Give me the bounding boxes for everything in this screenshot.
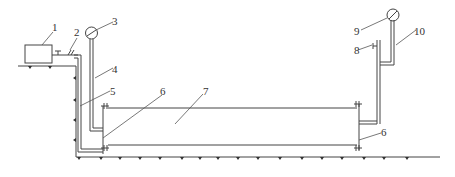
label-4: 4: [112, 63, 118, 75]
label-2: 2: [74, 26, 80, 38]
label-3: 3: [112, 15, 118, 27]
pressure-gauge-right-icon: [387, 9, 399, 21]
label-5: 5: [110, 85, 116, 97]
gauge-pipe-left: [90, 39, 103, 131]
labels: 1 2 3 4 5 6 7 6 8 9 10: [52, 15, 426, 138]
label-9: 9: [354, 25, 360, 37]
ground-left-wall: [73, 66, 76, 157]
label-6b: 6: [381, 126, 387, 138]
pressure-gauge-left-icon: [86, 27, 98, 39]
test-pipe: [101, 101, 362, 154]
gauge-pipe-right: [380, 20, 394, 65]
pump-box: [25, 45, 52, 63]
ground-bottom: [76, 157, 440, 160]
label-10: 10: [414, 25, 426, 37]
supply-pipe: [52, 50, 103, 152]
pipeline-diagram: 1 2 3 4 5 6 7 6 8 9 10: [0, 0, 455, 177]
label-6a: 6: [160, 85, 166, 97]
ground-upper-left: [18, 66, 76, 69]
label-7: 7: [203, 85, 209, 97]
leader-lines: [42, 18, 416, 140]
label-8: 8: [354, 44, 360, 56]
vent-pipe-right: [359, 40, 380, 124]
label-1: 1: [52, 21, 58, 33]
